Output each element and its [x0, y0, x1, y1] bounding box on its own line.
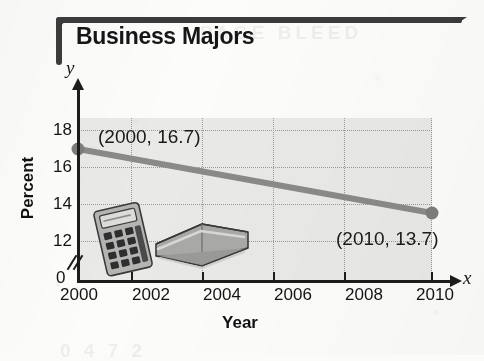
gridline-vertical	[202, 118, 203, 281]
y-axis-origin-label: 0	[56, 268, 65, 288]
y-tick-label-12: 12	[53, 231, 72, 251]
y-tick-label-18: 18	[53, 120, 72, 140]
x-tick-2006	[273, 272, 275, 282]
y-tick-label-14: 14	[53, 194, 72, 214]
x-tick-2010	[431, 272, 433, 282]
y-axis-title: Percent	[18, 143, 38, 233]
x-tick-2002	[131, 272, 133, 282]
gridline-vertical	[431, 118, 432, 281]
y-tick-label-16: 16	[53, 157, 72, 177]
x-tick-label-2002: 2002	[132, 285, 170, 305]
data-point-2010	[426, 207, 439, 220]
gridline-vertical	[344, 118, 345, 281]
x-tick-label-2008: 2008	[345, 285, 383, 305]
data-label-2000: (2000, 16.7)	[98, 126, 200, 148]
y-axis-arrow	[72, 78, 84, 90]
x-tick-label-2004: 2004	[203, 285, 241, 305]
x-axis-title: Year	[185, 313, 295, 333]
data-label-2010: (2010, 13.7)	[336, 228, 438, 250]
x-tick-2004	[202, 272, 204, 282]
x-axis-line	[77, 280, 452, 283]
x-tick-label-2010: 2010	[416, 285, 454, 305]
x-tick-2008	[344, 272, 346, 282]
y-axis-variable: y	[66, 57, 74, 79]
x-tick-label-2006: 2006	[274, 285, 312, 305]
gridline-vertical	[273, 118, 274, 281]
x-axis-variable: x	[463, 267, 471, 289]
